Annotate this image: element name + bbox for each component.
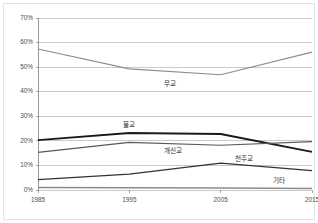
x-axis-tick-labels: 1985199520052015 [31,190,318,203]
y-tick-label: 70% [20,14,33,21]
y-tick-label: 20% [20,137,33,144]
y-tick-label: 30% [20,112,33,119]
x-tick-label: 1985 [31,196,46,203]
x-tick-label: 2005 [214,196,229,203]
x-tick-label: 2015 [305,196,318,203]
y-axis-tick-labels: 70%60%50%40%30%20%10%0% [20,14,38,193]
series-label-불교: 불교 [123,120,135,128]
religion-share-line-chart: 70%60%50%40%30%20%10%0% 1985199520052015… [0,0,318,223]
y-tick-label: 40% [20,87,33,94]
series-label-개신교: 개신교 [164,146,182,155]
y-tick-label: 0% [24,186,34,193]
y-tick-label: 50% [20,63,33,70]
x-tick-label: 1995 [122,196,137,203]
chart-canvas: 70%60%50%40%30%20%10%0% 1985199520052015… [0,0,318,223]
series-lines [38,49,312,189]
series-label-기타: 기타 [273,176,285,185]
series-label-천주교: 천주교 [235,154,253,163]
y-tick-label: 10% [20,161,33,168]
series-line-무교 [38,49,312,75]
gridlines [38,18,312,190]
series-line-기타 [38,188,312,189]
series-label-무교: 무교 [164,80,176,88]
y-tick-label: 60% [20,38,33,45]
